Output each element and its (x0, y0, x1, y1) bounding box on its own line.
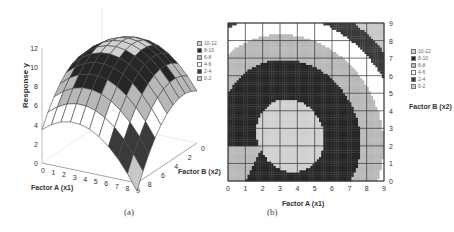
legend-item: 0-2 (411, 83, 431, 90)
legend-label: 6-8 (418, 62, 425, 69)
legend-label: 0-2 (204, 75, 211, 82)
legend-swatch (197, 69, 202, 74)
legend-swatch (411, 77, 416, 82)
legend-swatch (411, 56, 416, 61)
x-tick: 2 (62, 171, 66, 178)
caption-a: (a) (124, 207, 134, 217)
contour-plot: 01234567890123456789 (222, 0, 454, 232)
z-tick: 2 (34, 141, 38, 148)
x-tick-b: 7 (347, 185, 351, 192)
legend-swatch (411, 84, 416, 89)
contour-fill (228, 23, 384, 181)
x-tick-b: 4 (295, 185, 299, 192)
y-tick-b: 3 (389, 125, 393, 132)
legend-item: 10-12 (197, 40, 217, 47)
legend-item: 8-10 (411, 55, 431, 62)
x-tick-b: 0 (226, 185, 230, 192)
x-tick-b: 9 (382, 185, 386, 192)
y-tick: 8 (148, 181, 152, 188)
z-tick: 10 (30, 64, 38, 71)
surface-plot-panel: 024681012012345678902468 Response y Fact… (0, 0, 227, 232)
x-tick: 3 (73, 174, 77, 181)
legend-swatch (197, 76, 202, 81)
legend-label: 10-12 (418, 48, 431, 55)
legend-label: 4-6 (204, 61, 211, 68)
legend-label: 2-4 (204, 68, 211, 75)
x-tick: 0 (41, 167, 45, 174)
x-axis-label: Factor A (x1) (31, 184, 73, 191)
legend-label: 6-8 (204, 54, 211, 61)
legend-item: 10-12 (411, 48, 431, 55)
legend-label: 2-4 (418, 76, 425, 83)
z-axis-label: Response y (21, 63, 30, 108)
legend-item: 6-8 (197, 54, 217, 61)
x-tick-b: 5 (313, 185, 317, 192)
legend-item: 2-4 (197, 68, 217, 75)
legend-swatch (197, 41, 202, 46)
x-tick: 1 (52, 169, 56, 176)
x-tick: 8 (125, 185, 129, 192)
legend-item: 0-2 (197, 75, 217, 82)
legend-item: 4-6 (411, 69, 431, 76)
y-tick: 0 (201, 145, 205, 152)
caption-b: (b) (267, 207, 278, 217)
legend-label: 8-10 (418, 55, 428, 62)
x-tick-b: 6 (330, 185, 334, 192)
legend-swatch (411, 49, 416, 54)
x-tick: 5 (94, 178, 98, 185)
z-tick: 8 (34, 83, 38, 90)
legend-label: 0-2 (418, 83, 425, 90)
legend-label: 8-10 (204, 47, 214, 54)
y-axis-label: Factor B (x2) (178, 168, 221, 175)
x-tick-b: 2 (261, 185, 265, 192)
y-tick: 2 (188, 154, 192, 161)
legend-label: 10-12 (204, 40, 217, 47)
y-tick: 6 (161, 172, 165, 179)
z-tick: 0 (34, 160, 38, 167)
y-tick-b: 5 (389, 90, 393, 97)
legend-item: 6-8 (411, 62, 431, 69)
x-axis-label-b: Factor A (x1) (282, 200, 324, 207)
legend-item: 4-6 (197, 61, 217, 68)
legend-label: 4-6 (418, 69, 425, 76)
legend-swatch (197, 55, 202, 60)
z-tick: 4 (34, 122, 38, 129)
y-tick-b: 0 (389, 178, 393, 185)
y-axis-label-b: Factor B (x2) (409, 103, 452, 110)
x-tick-b: 8 (365, 185, 369, 192)
x-tick: 6 (104, 180, 108, 187)
y-tick-b: 6 (389, 73, 393, 80)
y-tick-b: 4 (389, 108, 393, 115)
contour-plot-panel: 01234567890123456789 10-128-106-84-62-40… (222, 0, 454, 232)
legend-item: 2-4 (411, 76, 431, 83)
legend-swatch (411, 63, 416, 68)
legend-item: 8-10 (197, 47, 217, 54)
contour-legend: 10-128-106-84-62-40-2 (411, 48, 431, 90)
legend-swatch (197, 62, 202, 67)
x-tick: 7 (115, 183, 119, 190)
z-tick: 12 (30, 45, 38, 52)
surface-plot: 024681012012345678902468 (0, 0, 227, 232)
z-tick: 6 (34, 102, 38, 109)
legend-swatch (197, 48, 202, 53)
x-tick-b: 3 (278, 185, 282, 192)
surface-legend: 10-128-106-84-62-40-2 (197, 40, 217, 82)
legend-swatch (411, 70, 416, 75)
y-tick-b: 8 (389, 38, 393, 45)
y-tick-b: 7 (389, 55, 393, 62)
x-tick: 4 (83, 176, 87, 183)
y-tick-b: 1 (389, 160, 393, 167)
x-tick-b: 1 (243, 185, 247, 192)
y-tick-b: 9 (389, 20, 393, 27)
y-tick-b: 2 (389, 143, 393, 150)
